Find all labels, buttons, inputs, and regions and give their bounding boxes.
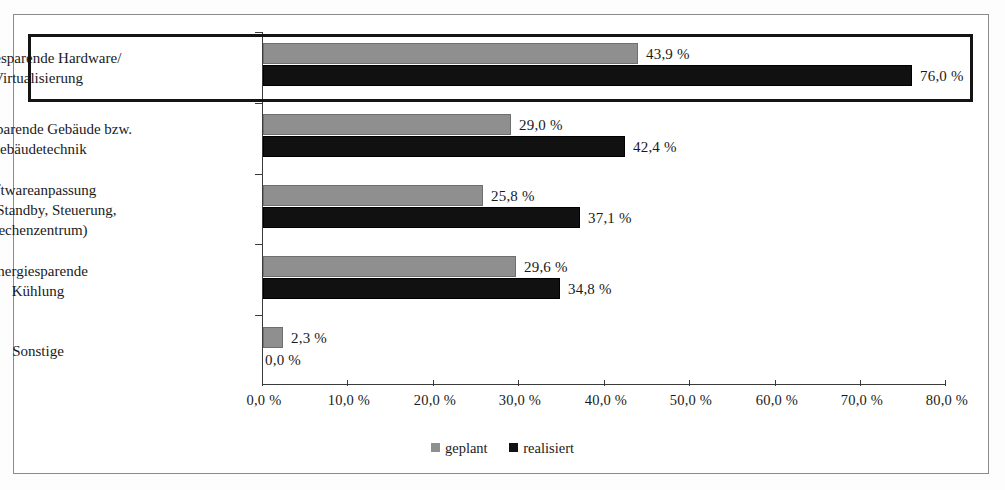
category-tick-0 bbox=[255, 32, 263, 33]
x-tick-1 bbox=[347, 380, 348, 386]
bar-geplant-4 bbox=[263, 327, 283, 348]
x-tick-2 bbox=[433, 380, 434, 386]
highlight-box-first-category bbox=[28, 34, 973, 102]
bar-value-realisiert-3: 34,8 % bbox=[568, 281, 612, 298]
category-tick-4 bbox=[255, 315, 263, 316]
x-tick-label-3: 30,0 % bbox=[480, 392, 560, 409]
x-tick-label-6: 60,0 % bbox=[737, 392, 817, 409]
chart-figure: 0,0 % 10,0 % 20,0 % 30,0 % 40,0 % 50,0 %… bbox=[0, 0, 1005, 490]
category-label-2: Softwareanpassung (z. B. Standby, Steuer… bbox=[0, 180, 258, 240]
x-tick-3 bbox=[518, 380, 519, 386]
x-tick-label-0: 0,0 % bbox=[224, 392, 304, 409]
bar-realisiert-2 bbox=[263, 207, 580, 228]
legend-swatch-geplant-icon bbox=[431, 443, 440, 452]
category-tick-2 bbox=[255, 174, 263, 175]
category-label-4: Sonstige bbox=[0, 341, 258, 361]
legend-label-geplant: geplant bbox=[445, 440, 488, 456]
bar-realisiert-3 bbox=[263, 278, 560, 299]
x-tick-8 bbox=[945, 380, 946, 386]
x-tick-label-2: 20,0 % bbox=[395, 392, 475, 409]
bar-geplant-1 bbox=[263, 114, 511, 135]
x-tick-label-7: 70,0 % bbox=[822, 392, 902, 409]
x-tick-5 bbox=[689, 380, 690, 386]
x-tick-label-1: 10,0 % bbox=[309, 392, 389, 409]
plot-area: 0,0 % 10,0 % 20,0 % 30,0 % 40,0 % 50,0 %… bbox=[0, 0, 1005, 490]
bar-value-geplant-4: 2,3 % bbox=[291, 330, 327, 347]
bar-value-geplant-2: 25,8 % bbox=[491, 188, 535, 205]
bar-geplant-2 bbox=[263, 185, 483, 206]
x-tick-label-5: 50,0 % bbox=[651, 392, 731, 409]
legend-label-realisiert: realisiert bbox=[523, 440, 574, 456]
bar-geplant-3 bbox=[263, 256, 516, 277]
bar-value-realisiert-4: 0,0 % bbox=[265, 352, 301, 369]
category-label-3: Energiesparende Kühlung bbox=[0, 261, 258, 301]
x-tick-label-4: 40,0 % bbox=[566, 392, 646, 409]
x-tick-7 bbox=[860, 380, 861, 386]
category-tick-3 bbox=[255, 244, 263, 245]
x-tick-label-8: 80,0 % bbox=[907, 392, 987, 409]
category-tick-1 bbox=[255, 103, 263, 104]
bar-value-realisiert-1: 42,4 % bbox=[633, 139, 677, 156]
x-tick-0 bbox=[262, 380, 263, 386]
bar-value-geplant-3: 29,6 % bbox=[524, 259, 568, 276]
legend-entry-realisiert: realisiert bbox=[509, 440, 574, 457]
x-tick-4 bbox=[604, 380, 605, 386]
legend-entry-geplant: geplant bbox=[431, 440, 488, 457]
category-label-1: Energiesparende Gebäude bzw. Gebäudetech… bbox=[0, 119, 258, 159]
x-tick-6 bbox=[775, 380, 776, 386]
chart-legend: geplant realisiert bbox=[0, 440, 1005, 457]
bar-value-geplant-1: 29,0 % bbox=[519, 117, 563, 134]
bar-realisiert-1 bbox=[263, 136, 625, 157]
legend-swatch-realisiert-icon bbox=[509, 443, 518, 452]
bar-value-realisiert-2: 37,1 % bbox=[588, 210, 632, 227]
